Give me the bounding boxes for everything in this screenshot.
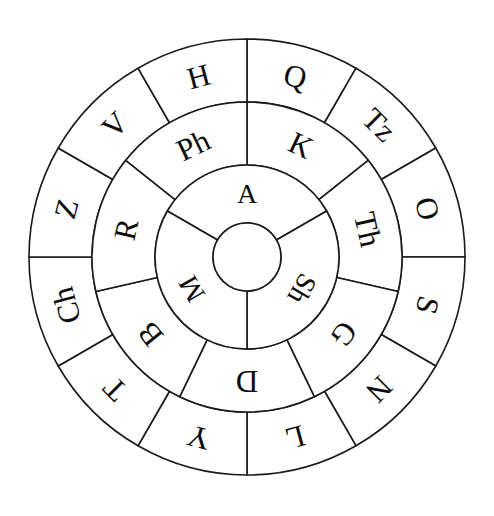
label-inner-ring-a: A [237,178,258,209]
center-hub-group [213,223,281,291]
center-hub[interactable] [213,223,281,291]
label-middle-ring-d: D [236,364,258,399]
wheel-svg-canvas: QTzOSNLYTChZVHKThGDBRPhAShM [0,0,494,516]
letter-wheel-diagram: QTzOSNLYTChZVHKThGDBRPhAShM [0,0,494,516]
